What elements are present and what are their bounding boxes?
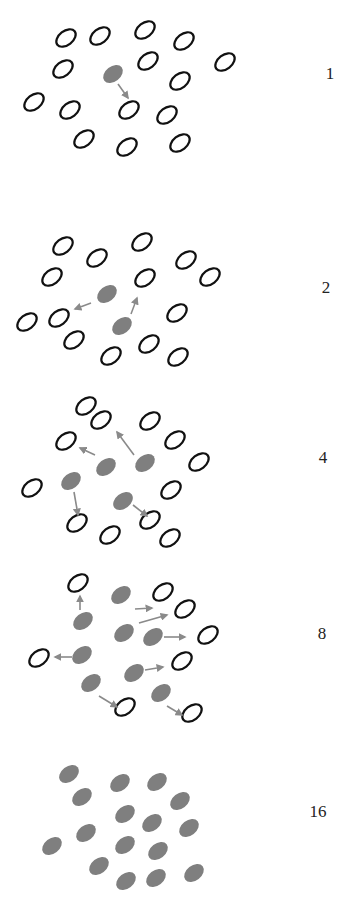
filled-ellipse bbox=[167, 788, 194, 813]
diagram-canvas bbox=[0, 0, 353, 904]
open-ellipse bbox=[14, 310, 40, 335]
open-ellipse bbox=[114, 135, 140, 160]
filled-ellipse bbox=[100, 61, 127, 86]
open-ellipse bbox=[97, 523, 123, 548]
open-ellipse bbox=[19, 476, 45, 501]
panel-4 bbox=[19, 394, 212, 551]
open-ellipse bbox=[157, 526, 183, 551]
filled-ellipse bbox=[143, 865, 170, 890]
panel-label-4: 4 bbox=[319, 448, 328, 468]
open-ellipse bbox=[64, 511, 90, 536]
filled-ellipse bbox=[176, 815, 203, 840]
filled-ellipse bbox=[144, 769, 171, 794]
filled-ellipse bbox=[94, 281, 121, 306]
open-ellipse bbox=[212, 50, 238, 75]
arrow-icon bbox=[75, 303, 91, 309]
open-ellipse bbox=[132, 18, 158, 43]
open-ellipse bbox=[53, 429, 79, 454]
panel-label-1: 1 bbox=[326, 64, 335, 84]
filled-ellipse bbox=[111, 620, 138, 645]
open-ellipse bbox=[50, 234, 76, 259]
arrow-icon bbox=[133, 505, 147, 516]
open-ellipse bbox=[173, 248, 199, 273]
open-ellipse bbox=[84, 246, 110, 271]
arrow-icon bbox=[135, 608, 152, 609]
filled-ellipse bbox=[78, 670, 105, 695]
filled-ellipse bbox=[112, 801, 139, 826]
arrow-icon bbox=[117, 432, 134, 455]
filled-ellipse bbox=[139, 810, 166, 835]
filled-ellipse bbox=[148, 680, 175, 705]
open-ellipse bbox=[129, 230, 155, 255]
arrow-icon bbox=[167, 706, 182, 715]
open-ellipse bbox=[135, 49, 161, 74]
open-ellipse bbox=[46, 306, 72, 331]
filled-ellipse bbox=[181, 860, 208, 885]
filled-ellipse bbox=[39, 833, 66, 858]
filled-ellipse bbox=[140, 624, 167, 649]
arrow-icon bbox=[118, 84, 128, 98]
filled-ellipse bbox=[113, 868, 140, 893]
arrow-icon bbox=[139, 615, 167, 623]
open-ellipse bbox=[167, 69, 193, 94]
filled-ellipse bbox=[56, 761, 83, 786]
open-ellipse bbox=[137, 409, 163, 434]
panel-label-2: 2 bbox=[322, 278, 331, 298]
open-ellipse bbox=[71, 127, 97, 152]
panel-16 bbox=[39, 761, 208, 893]
open-ellipse bbox=[186, 450, 212, 475]
open-ellipse bbox=[61, 328, 87, 353]
panel-2 bbox=[14, 230, 223, 370]
open-ellipse bbox=[87, 24, 113, 49]
panel-label-16: 16 bbox=[310, 802, 327, 822]
filled-ellipse bbox=[86, 853, 113, 878]
open-ellipse bbox=[162, 428, 188, 453]
open-ellipse bbox=[21, 90, 47, 115]
open-ellipse bbox=[154, 103, 180, 128]
open-ellipse bbox=[179, 701, 205, 726]
open-ellipse bbox=[98, 344, 124, 369]
arrow-icon bbox=[80, 448, 95, 455]
open-ellipse bbox=[172, 597, 198, 622]
filled-ellipse bbox=[93, 454, 120, 479]
filled-ellipse bbox=[58, 468, 85, 493]
filled-ellipse bbox=[145, 838, 172, 863]
open-ellipse bbox=[164, 301, 190, 326]
open-ellipse bbox=[167, 131, 193, 156]
open-ellipse bbox=[39, 265, 65, 290]
ellipse-layer bbox=[14, 18, 238, 894]
filled-ellipse bbox=[121, 660, 148, 685]
open-ellipse bbox=[136, 332, 162, 357]
open-ellipse bbox=[50, 57, 76, 82]
filled-ellipse bbox=[69, 642, 96, 667]
filled-ellipse bbox=[69, 784, 96, 809]
open-ellipse bbox=[53, 26, 79, 51]
open-ellipse bbox=[57, 98, 83, 123]
open-ellipse bbox=[197, 265, 223, 290]
open-ellipse bbox=[195, 623, 221, 648]
filled-ellipse bbox=[73, 820, 100, 845]
filled-ellipse bbox=[112, 832, 139, 857]
filled-ellipse bbox=[107, 770, 134, 795]
open-ellipse bbox=[132, 266, 158, 291]
panel-1 bbox=[21, 18, 238, 160]
arrow-icon bbox=[145, 667, 163, 670]
filled-ellipse bbox=[110, 488, 137, 513]
open-ellipse bbox=[165, 345, 191, 370]
open-ellipse bbox=[171, 29, 197, 54]
filled-ellipse bbox=[108, 582, 135, 607]
panel-8 bbox=[26, 571, 221, 726]
open-ellipse bbox=[150, 580, 176, 605]
filled-ellipse bbox=[70, 608, 97, 633]
filled-ellipse bbox=[109, 313, 136, 338]
panel-label-8: 8 bbox=[318, 624, 327, 644]
open-ellipse bbox=[169, 649, 195, 674]
arrow-icon bbox=[99, 696, 117, 707]
open-ellipse bbox=[26, 646, 52, 671]
open-ellipse bbox=[158, 478, 184, 503]
filled-ellipse bbox=[132, 450, 159, 475]
arrow-icon bbox=[74, 492, 78, 515]
open-ellipse bbox=[65, 571, 91, 596]
open-ellipse bbox=[116, 98, 142, 123]
arrow-icon bbox=[131, 298, 137, 314]
